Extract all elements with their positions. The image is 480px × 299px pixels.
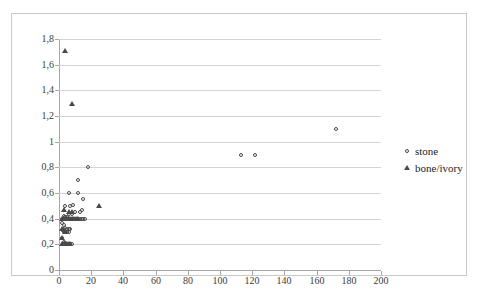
plot-area [59,39,381,270]
x-axis-label: 200 [366,276,396,286]
y-tick-mark [55,142,59,143]
gridline [59,90,381,91]
legend-item-stone[interactable]: stone [401,142,463,159]
y-tick-mark [55,65,59,66]
x-axis-label: 180 [334,276,364,286]
triangle-marker-icon [401,165,413,170]
gridline [59,142,381,143]
chart-frame: 00,20,40,60,811,21,41,61,8 0204060801001… [11,13,467,276]
legend-label-bone-ivory: bone/ivory [413,162,463,174]
y-axis-label: 1,6 [14,60,54,70]
y-axis-line [59,39,60,271]
y-tick-mark [55,90,59,91]
legend-item-bone-ivory[interactable]: bone/ivory [401,159,463,176]
scatter-chart: 00,20,40,60,811,21,41,61,8 0204060801001… [0,0,480,299]
x-axis-label: 120 [237,276,267,286]
y-axis-label: 0 [14,265,54,275]
y-tick-mark [55,167,59,168]
y-axis-label: 1,2 [14,111,54,121]
y-axis-label: 1,8 [14,34,54,44]
gridline [59,116,381,117]
x-axis-label: 100 [205,276,235,286]
y-axis-label: 0,6 [14,188,54,198]
x-axis-label: 20 [76,276,106,286]
gridline [59,219,381,220]
chart-legend: stone bone/ivory [401,142,463,176]
y-axis-label: 1 [14,137,54,147]
gridline [59,244,381,245]
x-axis-label: 60 [141,276,171,286]
y-tick-mark [55,219,59,220]
gridline [59,65,381,66]
gridline [59,39,381,40]
y-axis-label: 0,8 [14,162,54,172]
circle-marker-icon [401,149,413,153]
x-axis-label: 140 [269,276,299,286]
y-axis-label: 0,2 [14,239,54,249]
y-axis-label: 0,4 [14,214,54,224]
y-tick-mark [55,39,59,40]
x-axis-label: 160 [302,276,332,286]
y-tick-mark [55,244,59,245]
gridline [59,167,381,168]
x-axis-label: 80 [173,276,203,286]
x-axis-label: 40 [108,276,138,286]
y-tick-mark [55,193,59,194]
legend-label-stone: stone [413,145,438,157]
y-axis-label: 1,4 [14,85,54,95]
y-tick-mark [55,116,59,117]
x-axis-label: 0 [44,276,74,286]
gridline [59,193,381,194]
